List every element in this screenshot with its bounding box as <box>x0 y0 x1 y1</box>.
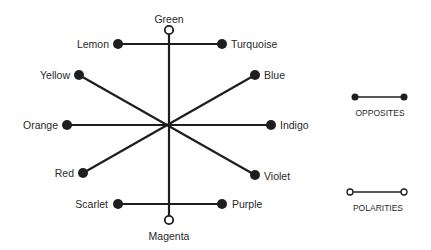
label-purple: Purple <box>232 198 263 210</box>
legend-opposites: OPPOSITES <box>352 94 408 119</box>
legend-opposites-label: OPPOSITES <box>355 108 404 118</box>
label-green: Green <box>154 13 183 25</box>
red-dot <box>78 168 88 178</box>
blue-dot <box>250 70 260 80</box>
label-orange: Orange <box>23 119 58 131</box>
legend-polarities-ring-left <box>347 189 353 195</box>
lemon-dot <box>113 39 123 49</box>
orange-dot <box>62 120 72 130</box>
legend-polarities-label: POLARITIES <box>353 203 403 213</box>
yellow-dot <box>74 70 84 80</box>
label-indigo: Indigo <box>280 119 309 131</box>
label-lemon: Lemon <box>77 38 109 50</box>
magenta-ring <box>165 216 173 224</box>
legend-polarities: POLARITIES <box>347 189 407 213</box>
label-turquoise: Turquoise <box>231 38 277 50</box>
legend-opposites-dot-right <box>401 94 408 101</box>
label-blue: Blue <box>264 69 285 81</box>
color-opposites-diagram: Green Magenta Lemon Turquoise Yellow Vio… <box>0 0 431 250</box>
legend-polarities-ring-right <box>401 189 407 195</box>
label-red: Red <box>55 167 74 179</box>
scarlet-dot <box>113 199 123 209</box>
violet-dot <box>250 170 260 180</box>
label-violet: Violet <box>264 170 290 182</box>
label-scarlet: Scarlet <box>75 198 108 210</box>
green-ring <box>165 26 173 34</box>
indigo-dot <box>266 120 276 130</box>
label-magenta: Magenta <box>149 230 190 242</box>
legend-opposites-dot-left <box>352 94 359 101</box>
turquoise-dot <box>217 39 227 49</box>
purple-dot <box>217 199 227 209</box>
label-yellow: Yellow <box>40 69 70 81</box>
